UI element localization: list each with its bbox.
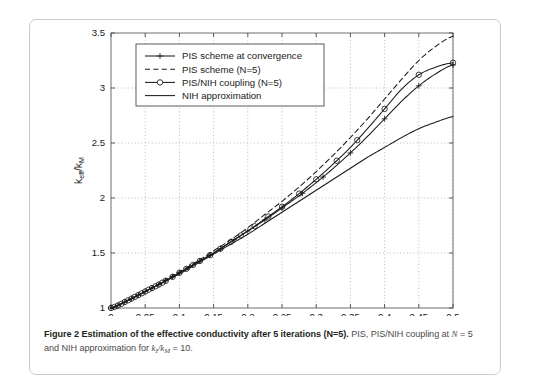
y-tick-label: 1 <box>100 302 105 313</box>
y-tick-label: 3.5 <box>92 27 105 38</box>
y-tick-label: 2.5 <box>92 137 105 148</box>
chart-plot: 00.050.10.150.20.250.30.350.40.450.511.5… <box>30 20 502 316</box>
figure-caption: Figure 2 Estimation of the effective con… <box>44 328 488 358</box>
x-tick-label: 0.25 <box>273 311 292 316</box>
x-tick-label: 0.2 <box>241 311 254 316</box>
caption-rest-a: PIS, PIS/NIH coupling at <box>349 329 452 339</box>
y-axis-title-text: keff/kM <box>73 157 85 184</box>
caption-bold-text: Figure 2 Estimation of the effective con… <box>44 329 349 339</box>
chart-svg: 00.050.10.150.20.250.30.350.40.450.511.5… <box>30 20 502 316</box>
figure-card: 00.050.10.150.20.250.30.350.40.450.511.5… <box>29 19 501 375</box>
x-tick-label: 0.15 <box>204 311 223 316</box>
y-tick-label: 2 <box>100 192 105 203</box>
chart-legend: PIS scheme at convergencePIS scheme (N=5… <box>136 44 324 106</box>
y-tick-label: 1.5 <box>92 247 105 258</box>
legend-item-label: PIS scheme at convergence <box>182 50 302 61</box>
x-tick-label: 0.3 <box>310 311 323 316</box>
x-tick-label: 0.5 <box>446 311 459 316</box>
legend-item-label: NIH approximation <box>182 90 261 101</box>
x-tick-label: 0.35 <box>341 311 360 316</box>
legend-marker-circle <box>157 80 162 85</box>
x-tick-label: 0.45 <box>409 311 428 316</box>
legend-item-label: PIS scheme (N=5) <box>182 64 261 75</box>
x-tick-label: 0.4 <box>378 311 392 316</box>
y-tick-label: 3 <box>100 82 105 93</box>
x-tick-label: 0.05 <box>136 311 155 316</box>
legend-item-label: PIS/NIH coupling (N=5) <box>182 77 282 88</box>
caption-rest-c: = 10. <box>170 343 193 353</box>
x-tick-label: 0 <box>108 311 113 316</box>
x-tick-labels: 00.050.10.150.20.250.30.350.40.450.5 <box>108 311 459 316</box>
y-axis-title: keff/kM <box>73 157 85 184</box>
y-tick-labels: 11.522.533.5 <box>92 27 105 313</box>
x-tick-label: 0.1 <box>173 311 186 316</box>
